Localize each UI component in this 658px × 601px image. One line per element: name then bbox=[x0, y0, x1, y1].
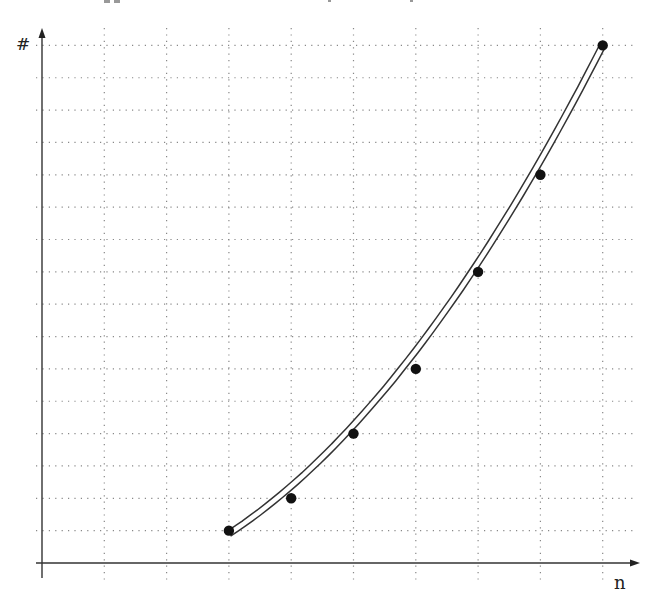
x-axis-label: n bbox=[614, 572, 626, 593]
data-point bbox=[286, 493, 296, 503]
data-point bbox=[224, 525, 234, 535]
cropped-caption-fragment bbox=[104, 0, 413, 3]
y-axis-label: # bbox=[16, 34, 30, 54]
data-point bbox=[348, 428, 358, 438]
data-point bbox=[535, 170, 545, 180]
data-point bbox=[598, 40, 608, 50]
x-axis-arrow-icon bbox=[630, 560, 640, 567]
y-axis-arrow-icon bbox=[39, 28, 46, 38]
chart-canvas bbox=[0, 0, 658, 601]
grid-lines bbox=[36, 28, 637, 580]
data-point bbox=[473, 267, 483, 277]
data-point bbox=[411, 364, 421, 374]
data-points bbox=[224, 40, 608, 536]
